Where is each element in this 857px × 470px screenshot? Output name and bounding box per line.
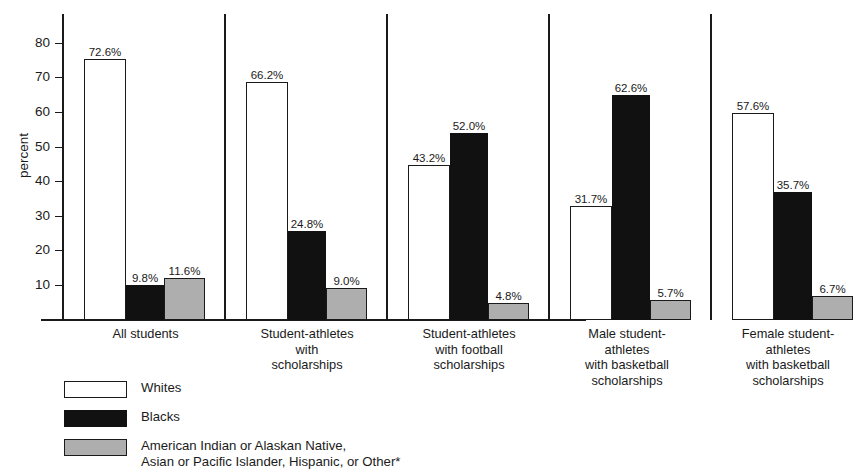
legend-swatch-whites-icon: [64, 381, 127, 398]
category-label-male-basketball: Male student- athletes with basketball s…: [547, 326, 707, 388]
y-tick-label-70: 70: [0, 70, 50, 84]
bar-value-label: 31.7%: [575, 193, 608, 205]
bar-value-label: 35.7%: [777, 179, 810, 191]
x-axis-category-labels: All students Student-athletes with schol…: [62, 326, 586, 384]
bar-whites-female-basketball: 57.6%: [732, 113, 774, 320]
category-label-football: Student-athletes with football scholarsh…: [390, 326, 548, 373]
legend-swatch-other-icon: [64, 439, 127, 456]
legend-item-other: American Indian or Alaskan Native, Asian…: [64, 438, 400, 470]
y-tick-label-20: 20: [0, 243, 50, 257]
legend-label-blacks: Blacks: [141, 409, 180, 425]
legend-swatch-blacks-icon: [64, 410, 127, 427]
bar-value-label: 5.7%: [657, 287, 683, 299]
y-tick-label-80: 80: [0, 36, 50, 50]
y-tick-label-60: 60: [0, 105, 50, 119]
bar-blacks-male-basketball: 62.6%: [612, 95, 650, 320]
y-tick-label-10: 10: [0, 278, 50, 292]
group-separator: [710, 14, 712, 320]
y-tick-label-30: 30: [0, 209, 50, 223]
legend-label-other: American Indian or Alaskan Native, Asian…: [141, 438, 400, 470]
bar-blacks-female-basketball: 35.7%: [774, 192, 812, 321]
y-tick-label-40: 40: [0, 174, 50, 188]
bar-other-female-basketball: 6.7%: [812, 296, 853, 320]
plot-area-right: 31.7% 62.6% 5.7% 57.6% 35.7% 6.7%: [62, 14, 586, 320]
bar-other-male-basketball: 5.7%: [650, 300, 691, 321]
legend-item-whites: Whites: [64, 380, 181, 398]
bar-value-label: 62.6%: [615, 82, 648, 94]
legend-label-whites: Whites: [141, 380, 181, 396]
category-label-all-students: All students: [68, 326, 223, 342]
y-tick-label-50: 50: [0, 140, 50, 154]
bar-value-label: 57.6%: [737, 100, 770, 112]
bar-value-label: 6.7%: [819, 283, 845, 295]
category-label-scholarships: Student-athletes with scholarships: [228, 326, 386, 373]
category-label-female-basketball: Female student- athletes with basketball…: [707, 326, 857, 388]
legend-item-blacks: Blacks: [64, 409, 180, 427]
bar-whites-male-basketball: 31.7%: [570, 206, 612, 320]
